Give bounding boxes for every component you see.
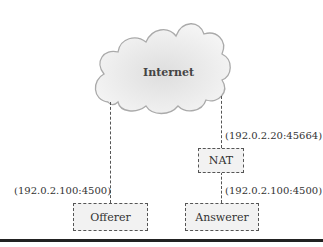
nat-uplink xyxy=(221,96,222,148)
nat-box: NAT xyxy=(198,148,244,173)
answerer-address: (192.0.2.100:4500) xyxy=(225,185,322,196)
bottom-rule xyxy=(0,239,323,242)
offerer-address: (192.0.2.100:4500) xyxy=(14,185,111,196)
nat-downlink xyxy=(221,172,222,203)
answerer-box: Answerer xyxy=(185,203,259,231)
offerer-box: Offerer xyxy=(73,203,148,231)
nat-public-address: (192.0.2.20:45664) xyxy=(225,130,322,141)
internet-label: Internet xyxy=(143,66,194,79)
